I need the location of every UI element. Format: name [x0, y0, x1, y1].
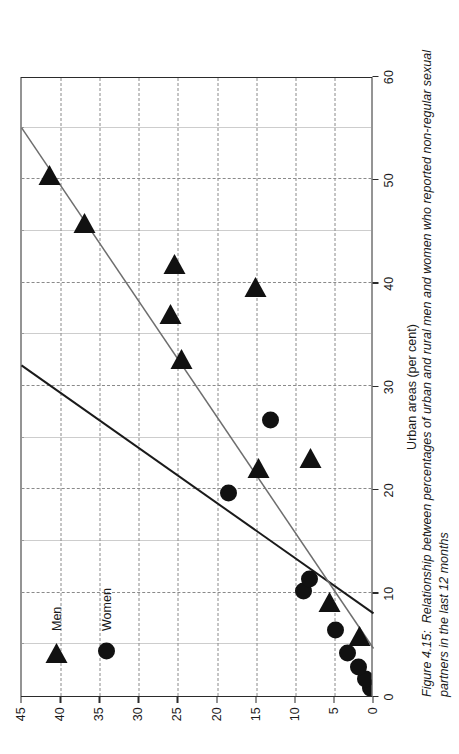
y-tick-label: 40 [52, 707, 66, 745]
triangle-right-icon [45, 643, 67, 663]
y-tick [216, 697, 217, 703]
legend-item-women: Women [95, 588, 117, 662]
x-tick-label: 40 [381, 277, 395, 291]
data-point-men-triangle-right-icon [244, 277, 266, 297]
data-point-women-filled-circle-icon [350, 659, 367, 676]
scanned-page: MenWomen 0102030405060051015202530354045… [0, 0, 459, 754]
y-tick [294, 697, 295, 703]
data-point-men-triangle-right-icon [170, 349, 192, 369]
data-point-men-triangle-right-icon [163, 254, 185, 274]
y-tick-label: 30 [130, 707, 144, 745]
y-tick [372, 697, 373, 703]
x-tick-label: 10 [381, 587, 395, 601]
data-point-women-filled-circle-icon [220, 485, 237, 502]
y-tick [98, 697, 99, 703]
legend-label-men: Men [49, 607, 63, 631]
y-tick-label: 20 [209, 707, 223, 745]
y-tick [59, 697, 60, 703]
legend-item-men: Men [45, 607, 67, 662]
data-point-men-triangle-right-icon [159, 304, 181, 324]
data-point-men-triangle-right-icon [299, 448, 321, 468]
legend-label-women: Women [99, 588, 113, 631]
data-point-women-filled-circle-icon [261, 412, 278, 429]
y-tick-label: 15 [248, 707, 262, 745]
x-tick [372, 489, 378, 490]
x-tick-label: 30 [381, 380, 395, 394]
x-tick-label: 0 [381, 693, 395, 700]
x-tick-label: 20 [381, 483, 395, 497]
legend-swatch-women [95, 640, 117, 662]
data-point-layer [21, 78, 371, 696]
y-tick [255, 697, 256, 703]
x-tick [372, 179, 378, 180]
y-tick-label: 35 [91, 707, 105, 745]
data-point-women-filled-circle-icon [327, 621, 344, 638]
filled-circle-icon [98, 643, 115, 660]
y-tick [333, 697, 334, 703]
x-axis-title: Urban areas (per cent) [404, 324, 418, 450]
data-point-women-filled-circle-icon [339, 644, 356, 661]
data-point-men-triangle-right-icon [73, 213, 95, 233]
data-point-men-triangle-right-icon [348, 626, 370, 646]
x-tick [372, 386, 378, 387]
x-tick [372, 282, 378, 283]
y-tick-label: 0 [365, 707, 379, 745]
plot-area: MenWomen [20, 77, 372, 697]
figure-caption: Figure 4.15:Relationship between percent… [418, 17, 452, 697]
figure-number: Figure 4.15: [419, 630, 433, 697]
x-tick [372, 592, 378, 593]
y-tick-label: 25 [169, 707, 183, 745]
y-tick [20, 697, 21, 703]
y-tick-label: 5 [326, 707, 340, 745]
data-point-men-triangle-right-icon [318, 592, 340, 612]
data-point-women-filled-circle-icon [300, 571, 317, 588]
figure-caption-text: Relationship between percentages of urba… [419, 50, 450, 697]
figure-4-15: MenWomen 0102030405060051015202530354045… [0, 0, 459, 754]
data-point-men-triangle-right-icon [38, 165, 60, 185]
x-tick [372, 76, 378, 77]
x-tick-label: 50 [381, 173, 395, 187]
legend-swatch-men [45, 640, 67, 662]
data-point-men-triangle-right-icon [247, 458, 269, 478]
x-tick-label: 60 [381, 70, 395, 84]
y-tick [176, 697, 177, 703]
y-tick-label: 10 [287, 707, 301, 745]
y-tick-label: 45 [13, 707, 27, 745]
y-tick [137, 697, 138, 703]
